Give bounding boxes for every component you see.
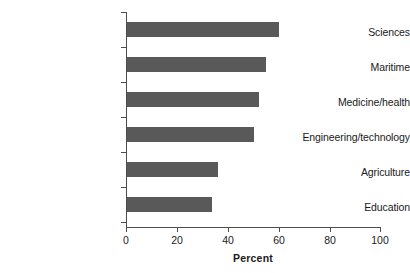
y-axis-tick-5 [121, 187, 126, 188]
x-axis-tick-60 [279, 227, 280, 232]
bar-sciences [127, 22, 279, 37]
x-tick-label-80: 80 [324, 234, 336, 246]
y-axis-tick-2 [121, 82, 126, 83]
bar-engineering-technology [127, 127, 254, 142]
y-tick-label-medicine-health: Medicine/health [292, 96, 410, 108]
bar-chart: Sciences Maritime Medicine/health Engine… [0, 0, 410, 273]
y-axis-tick-3 [121, 117, 126, 118]
bar-maritime [127, 57, 266, 72]
bar-medicine-health [127, 92, 259, 107]
y-tick-label-education: Education [292, 201, 410, 213]
x-axis-tick-80 [330, 227, 331, 232]
x-tick-label-40: 40 [222, 234, 234, 246]
x-tick-label-60: 60 [273, 234, 285, 246]
x-axis-tick-20 [177, 227, 178, 232]
x-tick-label-20: 20 [171, 234, 183, 246]
bar-education [127, 197, 212, 212]
x-axis-tick-0 [126, 227, 127, 232]
y-axis-line [126, 12, 127, 227]
y-axis-tick-0 [121, 12, 126, 13]
y-axis-tick-4 [121, 152, 126, 153]
y-axis-tick-6 [121, 222, 126, 223]
x-tick-label-100: 100 [371, 234, 389, 246]
y-tick-label-sciences: Sciences [292, 26, 410, 38]
y-tick-label-maritime: Maritime [292, 61, 410, 73]
x-axis-title: Percent [233, 252, 273, 264]
x-axis-line [126, 227, 381, 228]
y-axis-tick-1 [121, 47, 126, 48]
bar-agriculture [127, 162, 218, 177]
x-tick-label-0: 0 [123, 234, 129, 246]
y-tick-label-engineering-technology: Engineering/technology [292, 131, 410, 143]
y-tick-label-agriculture: Agriculture [292, 166, 410, 178]
x-axis-tick-100 [380, 227, 381, 232]
x-axis-tick-40 [228, 227, 229, 232]
